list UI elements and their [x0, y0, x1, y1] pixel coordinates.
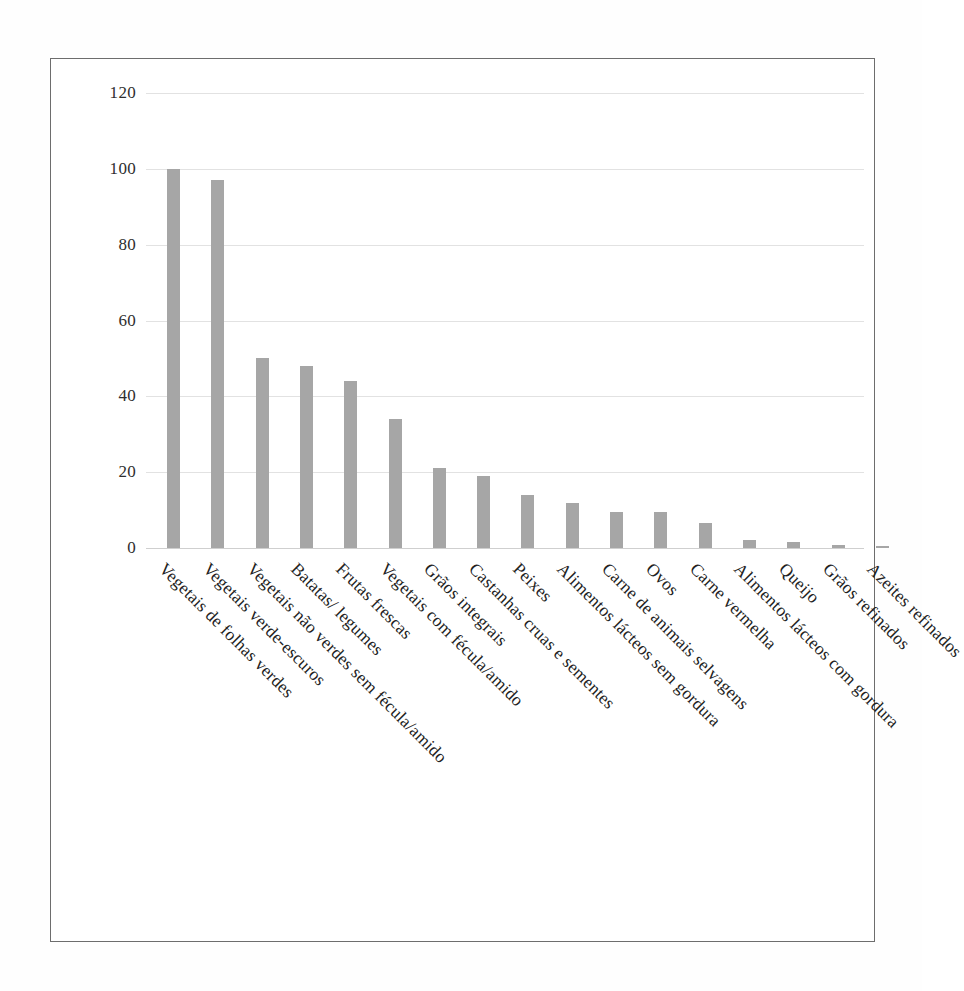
- bar: [743, 540, 756, 548]
- y-axis-tick-label: 0: [127, 538, 136, 558]
- x-axis-category-label: Ovos: [642, 560, 681, 599]
- y-axis-tick-label: 100: [110, 159, 136, 179]
- bar: [566, 503, 579, 549]
- x-axis-category-labels: Vegetais de folhas verdesVegetais verde-…: [146, 556, 906, 936]
- y-axis-tick-label: 60: [118, 311, 136, 331]
- gridline: [146, 93, 864, 94]
- bar: [787, 542, 800, 548]
- bar: [876, 546, 889, 548]
- bar: [610, 512, 623, 548]
- gridline: [146, 472, 864, 473]
- gridline: [146, 169, 864, 170]
- bar: [521, 495, 534, 548]
- gridline: [146, 548, 864, 549]
- gridline: [146, 321, 864, 322]
- y-axis-tick-label: 120: [110, 83, 136, 103]
- bar: [699, 523, 712, 548]
- bar: [654, 512, 667, 548]
- bar: [477, 476, 490, 548]
- gridline: [146, 396, 864, 397]
- bar: [433, 468, 446, 548]
- gridline: [146, 245, 864, 246]
- bar: [389, 419, 402, 548]
- bar: [256, 358, 269, 548]
- y-axis-tick-label: 80: [118, 235, 136, 255]
- bar: [211, 180, 224, 548]
- bar: [167, 169, 180, 548]
- bar: [344, 381, 357, 548]
- y-axis-tick-label: 20: [118, 462, 136, 482]
- y-axis-tick-label: 40: [118, 386, 136, 406]
- bar: [832, 545, 845, 548]
- plot-area: 020406080100120: [146, 93, 864, 548]
- bar: [300, 366, 313, 548]
